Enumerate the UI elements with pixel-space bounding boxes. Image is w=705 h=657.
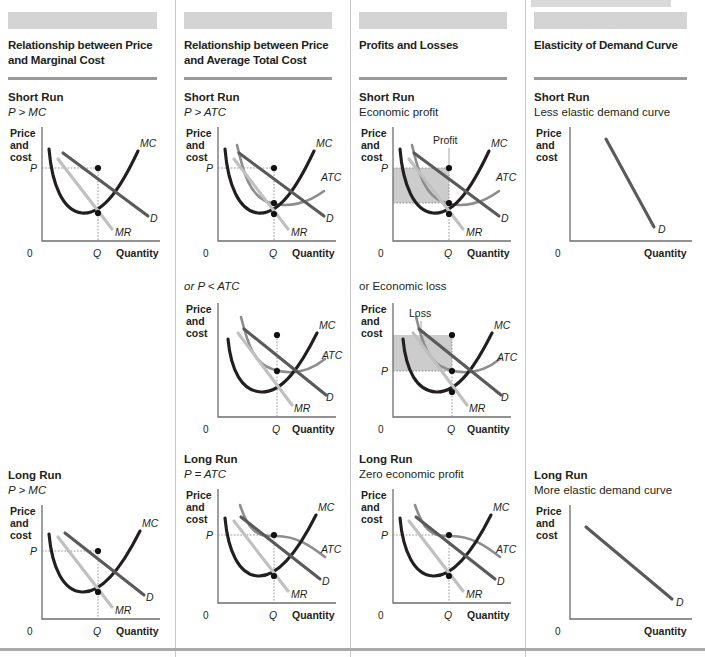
- column-profits-losses: Profits and Losses Short Run Economic pr…: [350, 0, 525, 657]
- y-axis-label-line1: Price: [10, 505, 36, 517]
- section-subtitle: P > MC: [8, 483, 165, 497]
- equilibrium-dot-price: [95, 547, 101, 553]
- quantity-tick: Q: [444, 609, 452, 621]
- label-mc: MC: [142, 517, 159, 529]
- equilibrium-dot-mc: [95, 588, 101, 594]
- column-title: Profits and Losses: [359, 38, 515, 68]
- y-axis-label-line2: and: [186, 315, 205, 327]
- label-mr: MR: [466, 226, 483, 238]
- label-mr: MR: [466, 588, 483, 600]
- section-heading: Short Run: [359, 91, 515, 104]
- y-axis-label-line3: cost: [361, 327, 383, 339]
- y-axis-label-line3: cost: [361, 513, 383, 525]
- comparison-grid: Relationship between Price and Marginal …: [0, 0, 705, 657]
- label-d: D: [326, 391, 334, 403]
- y-axis-label-line3: cost: [361, 151, 383, 163]
- section-subtitle: P > MC: [8, 105, 165, 119]
- header-rule: [184, 77, 332, 80]
- curve-d: [241, 517, 320, 579]
- chart-c4-long-run: Price and cost D 0 Quantity: [534, 501, 695, 641]
- header-rule: [534, 77, 687, 80]
- column-title: Elasticity of Demand Curve: [534, 38, 695, 68]
- equilibrium-dot-price: [271, 164, 277, 170]
- chart-c3-long-run: Price and cost MC ATC D MR P 0 Q Quanti: [359, 485, 515, 625]
- y-axis-label-line1: Price: [361, 303, 387, 315]
- equilibrium-dot-mc: [271, 210, 277, 216]
- y-axis-label-line3: cost: [10, 529, 32, 541]
- y-axis-label-line1: Price: [186, 303, 212, 315]
- y-axis-label-line2: and: [186, 139, 205, 151]
- label-mc: MC: [140, 137, 157, 149]
- equilibrium-dot-atc: [446, 199, 452, 205]
- label-mr: MR: [291, 226, 308, 238]
- curve-mc: [228, 333, 317, 392]
- quantity-tick: Q: [272, 423, 280, 435]
- y-axis-label-line2: and: [186, 501, 205, 513]
- profit-annotation: Profit: [433, 134, 458, 146]
- y-axis-label-line1: Price: [536, 505, 562, 517]
- alternative-case-label: or Economic loss: [359, 279, 515, 293]
- chart-c1-long-run: Price and cost MC D MR P 0 Q Quantity: [8, 501, 165, 641]
- equilibrium-dot-atc: [274, 331, 280, 337]
- label-mc: MC: [493, 501, 510, 513]
- column-title: Relationship between Price and Average T…: [184, 38, 340, 68]
- header-band: [184, 12, 332, 29]
- column-title: Relationship between Price and Marginal …: [8, 38, 165, 68]
- origin-label: 0: [378, 610, 384, 621]
- label-d: D: [676, 596, 684, 608]
- curve-d: [586, 527, 672, 599]
- label-atc: ATC: [496, 351, 518, 363]
- label-mr: MR: [115, 604, 132, 616]
- section-subtitle: P > ATC: [184, 105, 340, 119]
- label-mc: MC: [318, 501, 335, 513]
- section-heading: Long Run: [534, 469, 695, 482]
- price-tick: P: [381, 529, 388, 541]
- y-axis-label-line2: and: [10, 517, 29, 529]
- x-axis-label: Quantity: [292, 609, 335, 621]
- curve-d: [416, 517, 495, 579]
- label-atc: ATC: [320, 171, 342, 183]
- x-axis-label: Quantity: [467, 609, 510, 621]
- equilibrium-dot-atc: [449, 331, 455, 337]
- equilibrium-dot-mc: [271, 572, 277, 578]
- origin-label: 0: [203, 424, 209, 435]
- loss-annotation: Loss: [409, 307, 431, 319]
- label-mr: MR: [294, 402, 311, 414]
- equilibrium-dot-price: [274, 367, 280, 373]
- x-axis-label: Quantity: [467, 423, 510, 435]
- equilibrium-dot-price: [271, 531, 277, 537]
- label-atc: ATC: [320, 543, 342, 555]
- label-mc: MC: [316, 137, 333, 149]
- chart-c2-short-run: Price and cost MC ATC D MR P 0 Q: [184, 123, 340, 263]
- origin-label: 0: [27, 626, 33, 637]
- long-run-section: Long Run More elastic demand curve: [534, 469, 695, 497]
- short-run-section: Short Run Less elastic demand curve: [534, 91, 695, 119]
- label-d: D: [322, 575, 330, 587]
- equilibrium-dot-mc: [95, 209, 101, 215]
- y-axis-label-line2: and: [361, 315, 380, 327]
- y-axis-label-line3: cost: [186, 513, 208, 525]
- origin-label: 0: [378, 248, 384, 259]
- origin-label: 0: [378, 424, 384, 435]
- x-axis-label: Quantity: [292, 423, 335, 435]
- label-atc: ATC: [495, 171, 517, 183]
- section-subtitle: Economic profit: [359, 105, 515, 119]
- equilibrium-dot-mc: [446, 572, 452, 578]
- y-axis-label-line3: cost: [10, 151, 32, 163]
- label-d: D: [497, 575, 505, 587]
- chart-c4-short-run: Price and cost D 0 Quantity: [534, 123, 695, 263]
- label-d: D: [146, 591, 154, 603]
- label-mc: MC: [491, 137, 508, 149]
- column-elasticity-demand: Elasticity of Demand Curve Short Run Les…: [525, 0, 705, 657]
- chart-c1-short-run: Price and cost MC D MR P 0 Q Quantity: [8, 123, 165, 263]
- section-heading: Short Run: [184, 91, 340, 104]
- chart-c2-alt: Price and cost MC ATC D MR 0 Q Quantity: [184, 299, 340, 439]
- x-axis-label: Quantity: [644, 247, 687, 259]
- x-axis-label: Quantity: [116, 247, 159, 259]
- y-axis-label-line1: Price: [361, 127, 387, 139]
- header-band: [359, 12, 507, 29]
- price-tick: P: [381, 365, 388, 377]
- section-heading: Short Run: [8, 91, 165, 104]
- label-mr: MR: [291, 588, 308, 600]
- quantity-tick: Q: [269, 609, 277, 621]
